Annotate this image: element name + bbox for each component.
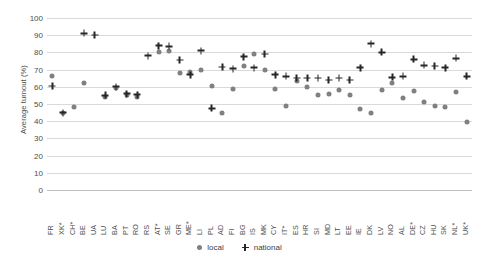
y-tick-label: 10: [19, 168, 43, 177]
x-axis-tick-labels: FRXK*CH*BEUALUBAPTRORSAT*SEGRME*LIPLADFI…: [47, 193, 472, 235]
data-point-local: [252, 52, 257, 57]
data-point-national: [389, 74, 396, 81]
data-point-national: [314, 75, 321, 82]
x-tick-label: IE: [354, 228, 363, 235]
x-tick-label: AT*: [153, 223, 162, 235]
gridline: [47, 173, 472, 174]
x-tick-label: SI: [312, 228, 321, 235]
y-tick-label: 80: [19, 48, 43, 57]
data-point-national: [272, 71, 279, 78]
x-tick-label: ME*: [184, 221, 193, 235]
legend-label: local: [207, 243, 223, 252]
x-tick-label: SK: [439, 225, 448, 235]
data-point-local: [443, 104, 448, 109]
national-marker-icon: [242, 244, 249, 251]
x-tick-label: IT*: [280, 226, 289, 236]
data-point-national: [102, 92, 109, 99]
x-tick-label: HU: [429, 224, 438, 235]
data-point-local: [262, 67, 267, 72]
gridline: [47, 156, 472, 157]
data-point-national: [378, 49, 385, 56]
y-tick-label: 90: [19, 31, 43, 40]
x-tick-label: FR: [46, 225, 55, 235]
data-point-local: [305, 84, 310, 89]
y-axis-tick-labels: 0102030405060708090100: [17, 18, 43, 190]
data-point-local: [432, 103, 437, 108]
x-tick-label: UK*: [461, 222, 470, 235]
data-point-national: [91, 32, 98, 39]
data-point-national: [251, 64, 258, 71]
x-tick-label: RO: [131, 224, 140, 235]
data-point-national: [113, 83, 120, 90]
x-tick-label: AD: [216, 225, 225, 235]
data-point-national: [166, 43, 173, 50]
data-point-national: [442, 64, 449, 71]
gridline: [47, 35, 472, 36]
data-point-national: [187, 71, 194, 78]
x-tick-label: BG: [238, 224, 247, 235]
data-point-local: [390, 81, 395, 86]
data-point-national: [431, 63, 438, 70]
data-point-local: [82, 80, 87, 85]
x-tick-label: UA: [89, 225, 98, 235]
data-point-national: [399, 73, 406, 80]
data-point-national: [229, 65, 236, 72]
gridline: [47, 190, 472, 191]
chart-legend: localnational: [0, 243, 479, 252]
y-tick-label: 50: [19, 100, 43, 109]
data-point-national: [240, 53, 247, 60]
y-tick-label: 30: [19, 134, 43, 143]
legend-item-national[interactable]: national: [242, 243, 282, 252]
x-tick-label: PL: [206, 226, 215, 235]
data-point-local: [369, 111, 374, 116]
data-point-local: [347, 93, 352, 98]
data-point-national: [410, 56, 417, 63]
x-tick-label: LT: [333, 227, 342, 235]
data-point-local: [337, 88, 342, 93]
x-tick-label: MD: [323, 224, 332, 235]
x-tick-label: EE: [344, 225, 353, 235]
data-point-national: [346, 76, 353, 83]
y-tick-label: 40: [19, 117, 43, 126]
y-tick-label: 20: [19, 151, 43, 160]
data-point-local: [50, 74, 55, 79]
data-point-local: [464, 120, 469, 125]
y-tick-label: 70: [19, 65, 43, 74]
data-point-national: [198, 47, 205, 54]
x-tick-label: DE*: [408, 222, 417, 235]
x-tick-label: CZ: [418, 225, 427, 235]
data-point-national: [144, 52, 151, 59]
y-tick-label: 0: [19, 186, 43, 195]
x-tick-label: RS: [142, 225, 151, 235]
x-tick-label: LI: [195, 229, 204, 235]
data-point-national: [283, 73, 290, 80]
x-tick-label: BE: [78, 225, 87, 235]
x-tick-label: FI: [227, 228, 236, 235]
data-point-local: [209, 83, 214, 88]
data-point-national: [368, 40, 375, 47]
data-point-national: [49, 82, 56, 89]
data-point-national: [325, 76, 332, 83]
data-point-national: [219, 64, 226, 71]
gridline: [47, 138, 472, 139]
data-point-national: [176, 57, 183, 64]
data-point-local: [199, 68, 204, 73]
data-point-national: [304, 75, 311, 82]
data-point-local: [241, 64, 246, 69]
x-tick-label: SE: [163, 225, 172, 235]
gridline: [47, 70, 472, 71]
data-point-local: [315, 92, 320, 97]
y-tick-label: 60: [19, 82, 43, 91]
x-tick-label: PT: [121, 226, 130, 235]
x-tick-label: NL*: [450, 223, 459, 235]
data-point-national: [81, 30, 88, 37]
legend-item-local[interactable]: local: [197, 243, 223, 252]
data-point-national: [357, 64, 364, 71]
data-point-local: [400, 95, 405, 100]
data-point-local: [379, 88, 384, 93]
data-point-local: [71, 104, 76, 109]
gridline: [47, 18, 472, 19]
gridline: [47, 52, 472, 53]
x-tick-label: ES: [291, 225, 300, 235]
data-point-local: [230, 87, 235, 92]
